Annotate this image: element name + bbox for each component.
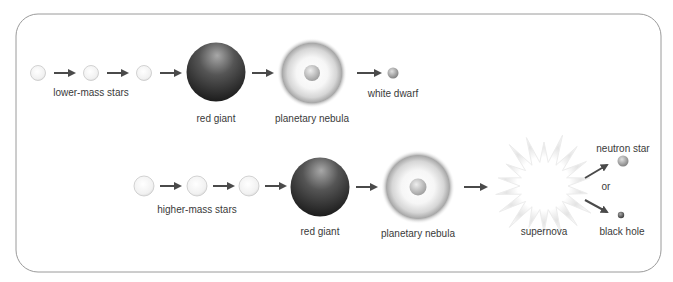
label-lower-mass-stars: lower-mass stars — [53, 87, 129, 99]
label-white-dwarf: white dwarf — [368, 88, 419, 100]
nebula-core-icon — [304, 65, 320, 81]
label-higher-mass-stars: higher-mass stars — [157, 204, 236, 216]
nebula-core-icon — [410, 179, 427, 196]
main-sequence-star-icon — [134, 176, 154, 196]
label-black-hole: black hole — [599, 226, 644, 238]
stellar-evolution-diagram: lower-mass stars red giant planetary neb… — [0, 0, 673, 282]
main-sequence-star-icon — [137, 66, 152, 81]
red-giant-icon — [187, 43, 246, 102]
black-hole-icon — [618, 212, 624, 218]
neutron-star-icon — [618, 156, 629, 167]
label-red-giant-low: red giant — [197, 113, 236, 125]
main-sequence-star-icon — [31, 66, 46, 81]
label-planetary-nebula-low: planetary nebula — [275, 113, 349, 125]
main-sequence-star-icon — [239, 176, 259, 196]
label-red-giant-high: red giant — [301, 226, 340, 238]
diagram-canvas — [0, 0, 673, 282]
main-sequence-star-icon — [84, 66, 99, 81]
label-supernova: supernova — [521, 226, 568, 238]
label-neutron-star: neutron star — [596, 143, 649, 155]
red-giant-icon — [291, 158, 350, 217]
white-dwarf-icon — [388, 68, 399, 79]
label-planetary-nebula-high: planetary nebula — [381, 228, 455, 240]
label-or: or — [602, 181, 611, 193]
main-sequence-star-icon — [187, 176, 207, 196]
